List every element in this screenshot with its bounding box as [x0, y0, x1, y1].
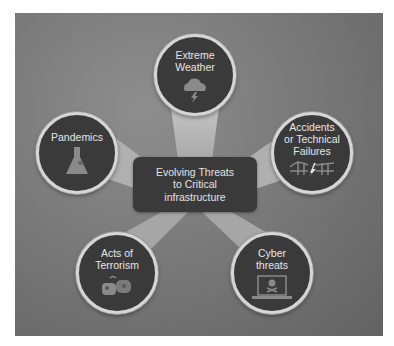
- node-label: Extreme Weather: [171, 49, 219, 73]
- node-cyber: Cyber threats: [231, 232, 313, 314]
- node-terrorism: Acts of Terrorism: [76, 232, 158, 314]
- node-label: Pandemics: [47, 131, 107, 143]
- broken-bridge-icon: [290, 159, 334, 181]
- laptop-skull-icon: [250, 275, 294, 305]
- node-label: Acts of Terrorism: [91, 247, 143, 271]
- node-label: Accidents or Technical Failures: [280, 121, 344, 157]
- node-pandemics: Pandemics: [36, 112, 118, 194]
- node-extreme-weather: Extreme Weather: [154, 34, 236, 116]
- flask-icon: [64, 147, 90, 179]
- explosion-icon: [100, 275, 134, 301]
- node-accidents: Accidents or Technical Failures: [271, 112, 353, 194]
- node-label: Cyber threats: [252, 247, 292, 271]
- storm-cloud-icon: [179, 77, 211, 107]
- center-hub: Evolving Threats to Critical infrastruct…: [133, 157, 257, 212]
